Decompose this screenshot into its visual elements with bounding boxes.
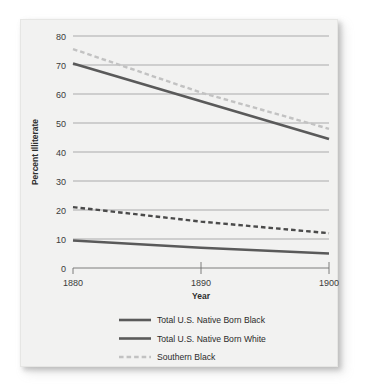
y-axis-title: Percent Illiterate [30,119,40,185]
figure-root: 80 70 60 50 40 30 20 10 0 Percent Illite… [0,0,372,390]
legend-label-2: Total U.S. Native Born White [157,334,266,344]
line-chart-plot: 80 70 60 50 40 30 20 10 0 Percent Illite… [21,20,339,368]
series-layer [73,49,329,253]
series-line-southern-black [73,49,329,129]
series-line-total-u-s-native-born-white [73,240,329,253]
x-tick-label-1880: 1880 [63,278,83,288]
x-tick-label-1890: 1890 [191,278,211,288]
y-tick-label-60: 60 [56,90,66,100]
chart-legend: Total U.S. Native Born BlackTotal U.S. N… [119,315,266,368]
y-tick-label-80: 80 [56,32,66,42]
y-tick-label-10: 10 [56,235,66,245]
y-tick-label-0: 0 [61,264,66,274]
y-axis-tick-labels: 80 70 60 50 40 30 20 10 0 [56,32,66,274]
series-line-total-u-s-native-born-black [73,64,329,139]
legend-label-1: Total U.S. Native Born Black [157,315,266,325]
y-tick-label-20: 20 [56,206,66,216]
series-line-southern-white [73,207,329,233]
chart-panel: 80 70 60 50 40 30 20 10 0 Percent Illite… [20,19,338,367]
y-tick-label-30: 30 [56,177,66,187]
legend-label-3: Southern Black [157,352,216,362]
x-axis-tick-labels: 1880 1890 1900 [63,278,339,288]
y-tick-label-40: 40 [56,148,66,158]
x-axis-title: Year [192,291,211,301]
y-tick-label-50: 50 [56,119,66,129]
gridlines [73,36,329,239]
x-axis [73,262,329,274]
x-tick-label-1900: 1900 [319,278,339,288]
y-tick-label-70: 70 [56,61,66,71]
